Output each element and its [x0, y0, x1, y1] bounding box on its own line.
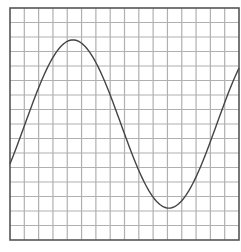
sine-wave-chart	[0, 0, 241, 252]
grid-lines	[10, 8, 239, 240]
